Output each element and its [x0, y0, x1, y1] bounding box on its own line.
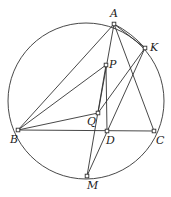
- circumcircle: [8, 23, 164, 179]
- segment-p-d: [106, 65, 107, 131]
- label-k: K: [149, 41, 159, 54]
- point-b: [16, 128, 20, 132]
- points: [16, 22, 156, 178]
- segments: [18, 24, 154, 176]
- point-c: [152, 129, 156, 133]
- point-d: [105, 129, 109, 133]
- label-q: Q: [87, 115, 96, 128]
- geometry-figure: AKPQBDCM: [0, 0, 171, 197]
- point-q: [96, 111, 100, 115]
- label-p: P: [108, 58, 117, 71]
- segment-k-q: [98, 48, 145, 113]
- point-k: [143, 46, 147, 50]
- label-m: M: [86, 179, 99, 192]
- point-a: [112, 22, 116, 26]
- labels: AKPQBDCM: [9, 7, 165, 192]
- segment-b-c: [18, 130, 154, 131]
- label-a: A: [109, 7, 118, 20]
- point-p: [104, 63, 108, 67]
- point-m: [85, 174, 89, 178]
- label-b: B: [9, 133, 18, 146]
- label-d: D: [105, 134, 115, 147]
- label-c: C: [156, 134, 165, 147]
